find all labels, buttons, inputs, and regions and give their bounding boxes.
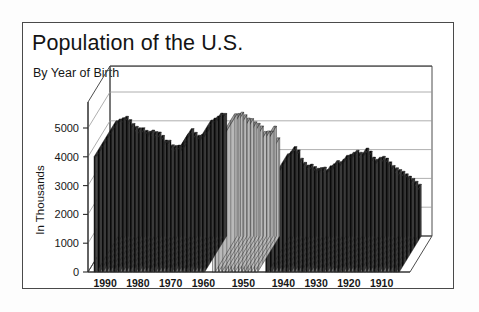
- y-axis-title: In Thousands: [34, 165, 46, 235]
- x-tick-label: 1930: [304, 277, 328, 289]
- x-tick-label: 1960: [192, 277, 216, 289]
- y-tick-label: 5000: [55, 122, 79, 134]
- x-tick-label: 1950: [232, 277, 256, 289]
- chart-bars: [94, 112, 421, 272]
- y-tick-label: 3000: [55, 180, 79, 192]
- x-tick-label: 1910: [370, 277, 394, 289]
- bar-chart-svg: 010002000300040005000In Thousands1990198…: [22, 22, 454, 289]
- chart-page: Population of the U.S. By Year of Birth: [0, 0, 479, 312]
- x-tick-label: 1980: [126, 277, 150, 289]
- x-tick-label: 1990: [93, 277, 117, 289]
- x-tick-label: 1970: [159, 277, 183, 289]
- y-tick-label: 4000: [55, 151, 79, 163]
- x-tick-label: 1940: [272, 277, 296, 289]
- x-tick-label: 1920: [337, 277, 361, 289]
- y-tick-label: 1000: [55, 237, 79, 249]
- y-tick-label: 0: [73, 266, 79, 278]
- y-tick-label: 2000: [55, 208, 79, 220]
- chart-plot-area: 010002000300040005000In Thousands1990198…: [22, 22, 454, 289]
